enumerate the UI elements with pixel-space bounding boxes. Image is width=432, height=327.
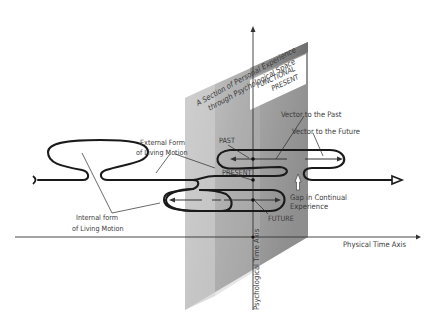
internal-form-label-1: Internal form: [76, 213, 118, 222]
future-label: FUTURE: [268, 214, 294, 223]
end-arrow-icon: [392, 176, 402, 184]
future-point: [251, 198, 255, 202]
start-marker-icon: [33, 176, 36, 184]
plane-left-band: [185, 84, 215, 310]
origin-point: [251, 235, 254, 238]
external-form-label-1: External Form: [140, 138, 185, 147]
present-label: PRESENT: [222, 168, 252, 177]
psychological-time-axis-label: Psychological Time Axis: [252, 228, 261, 310]
past-label: PAST: [219, 136, 235, 145]
external-form-label-2: of Living Motion: [136, 148, 187, 157]
vector-future-label: Vector to the Future: [292, 127, 360, 136]
internal-form-label-2: of Living Motion: [72, 224, 123, 233]
physical-time-axis-label: Physical Time Axis: [343, 240, 406, 249]
living-motion-diagram: Physical Time Axis Psychological Time Ax…: [0, 0, 432, 327]
gap-label-2: Experience: [290, 202, 328, 211]
vector-past-label: Vector to the Past: [281, 110, 342, 119]
gap-label-1: Gap in Continual: [290, 193, 347, 202]
past-point: [251, 157, 255, 161]
